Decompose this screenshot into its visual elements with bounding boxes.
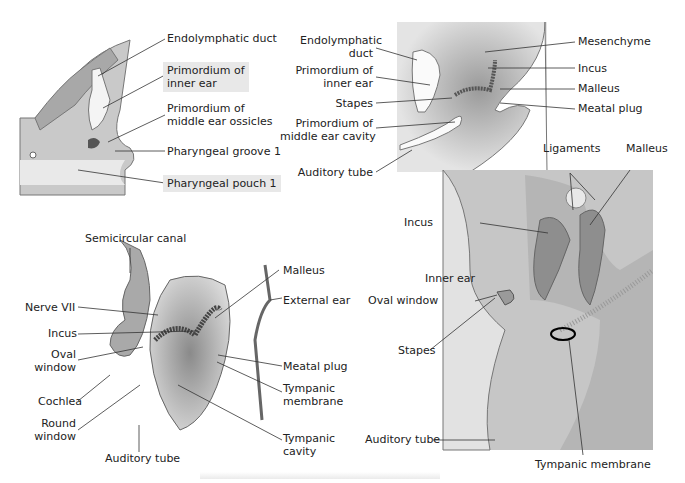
label-pharyngeal-pouch: Pharyngeal pouch 1 (163, 175, 281, 192)
label-line2: window (34, 430, 76, 443)
label-tympanic-membrane-d: Tympanic membrane (535, 458, 651, 471)
label-line1: Oval (51, 348, 76, 361)
label-nerve-vii: Nerve VII (25, 301, 75, 314)
label-tympanic-membrane-c: Tympanicmembrane (283, 382, 343, 408)
label-primordium-inner-ear-b: Primordium ofinner ear (290, 64, 373, 90)
label-line1: Primordium of (167, 64, 245, 77)
label-incus-b: Incus (578, 62, 607, 75)
label-ligaments: Ligaments (543, 142, 600, 155)
panel-c-drawing (110, 240, 270, 430)
label-meatal-plug-b: Meatal plug (578, 102, 643, 115)
label-cochlea: Cochlea (38, 395, 82, 408)
label-line2: window (34, 361, 76, 374)
label-malleus-b: Malleus (578, 82, 620, 95)
label-line2: inner ear (323, 77, 373, 90)
label-primordium-inner-ear-a: Primordium ofinner ear (163, 62, 249, 92)
label-round-window: Roundwindow (20, 417, 76, 443)
label-stapes-b: Stapes (300, 97, 373, 110)
label-oval-window-c: Ovalwindow (20, 348, 76, 374)
label-semicircular-canal: Semicircular canal (85, 232, 186, 245)
label-malleus-d: Malleus (626, 142, 668, 155)
label-endolymphatic-duct-b: Endolymphaticduct (300, 34, 373, 60)
label-line1: Round (41, 417, 76, 430)
figure-caption-cropped (200, 472, 440, 479)
label-tympanic-cavity: Tympaniccavity (283, 432, 335, 458)
label-mesenchyme: Mesenchyme (578, 35, 651, 48)
label-external-ear: External ear (283, 294, 350, 307)
label-line2: middle ear ossicles (167, 115, 272, 128)
label-malleus-c: Malleus (283, 264, 325, 277)
label-line1: Endolymphatic (300, 34, 382, 47)
label-auditory-tube-c: Auditory tube (105, 452, 180, 465)
label-line1: Tympanic (283, 432, 335, 445)
label-line1: Tympanic (283, 382, 335, 395)
label-primordium-cavity: Primordium ofmiddle ear cavity (280, 117, 373, 143)
panel-a-drawing (20, 40, 134, 195)
label-line1: Primordium of (295, 64, 373, 77)
label-line1: Primordium of (295, 117, 373, 130)
panel-d-drawing (443, 170, 653, 450)
label-inner-ear: Inner ear (425, 272, 475, 285)
label-line2: duct (349, 47, 373, 60)
label-line2: membrane (283, 395, 343, 408)
label-line1: Primordium of (167, 102, 245, 115)
panel-b-drawing (397, 22, 547, 172)
label-pharyngeal-groove: Pharyngeal groove 1 (167, 145, 281, 158)
label-primordium-ossicles: Primordium ofmiddle ear ossicles (167, 102, 272, 128)
label-incus-c: Incus (48, 327, 77, 340)
label-oval-window-d: Oval window (368, 294, 438, 307)
label-line2: cavity (283, 445, 316, 458)
label-stapes-d: Stapes (398, 344, 436, 357)
label-line2: inner ear (167, 77, 217, 90)
label-auditory-tube-d: Auditory tube (365, 433, 440, 446)
label-meatal-plug-c: Meatal plug (283, 360, 348, 373)
label-line2: middle ear cavity (280, 130, 376, 143)
label-auditory-tube-b: Auditory tube (290, 166, 373, 179)
label-endolymphatic-duct-a: Endolymphatic duct (167, 32, 277, 45)
label-incus-d: Incus (404, 216, 433, 229)
